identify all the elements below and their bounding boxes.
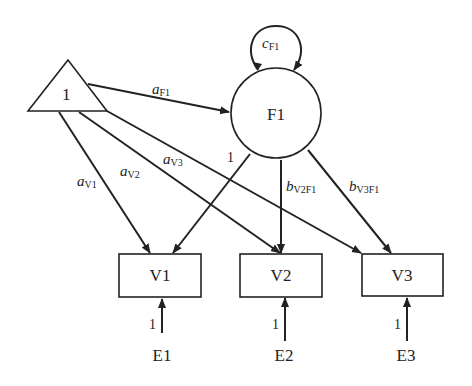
V1-label: V1 [150,266,171,285]
V3-label: V3 [392,266,413,285]
edge-a-V3 [107,111,361,253]
edge-b-V3F1 [308,150,391,253]
path-diagram: 1 F1 V1 V2 V3 E1 E2 E3 aF1 aV1 aV2 aV3 1… [0,0,472,386]
E2-label: E2 [275,346,294,365]
E1-label: E1 [153,346,172,365]
edge-a-V1 [59,112,150,253]
V2-label: V2 [271,266,292,285]
label-F1-V1: 1 [227,150,234,165]
label-a-V2: aV2 [120,163,140,180]
label-b-V2F1: bV2F1 [286,178,316,195]
E3-label: E3 [397,346,416,365]
label-E3-V3: 1 [394,317,401,332]
label-E1-V1: 1 [149,317,156,332]
label-a-V3: aV3 [163,151,183,168]
label-E2-V2: 1 [272,317,279,332]
label-a-V1: aV1 [77,173,97,190]
constant-label: 1 [62,85,71,104]
label-c-F1: cF1 [262,35,279,52]
F1-label: F1 [267,105,285,124]
label-b-V3F1: bV3F1 [349,178,379,195]
label-a-F1: aF1 [152,81,170,98]
